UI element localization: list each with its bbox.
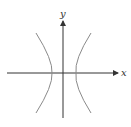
x-axis-label: x: [121, 67, 127, 78]
y-axis-label: y: [59, 8, 66, 19]
hyperbola-diagram: y x: [0, 0, 131, 127]
